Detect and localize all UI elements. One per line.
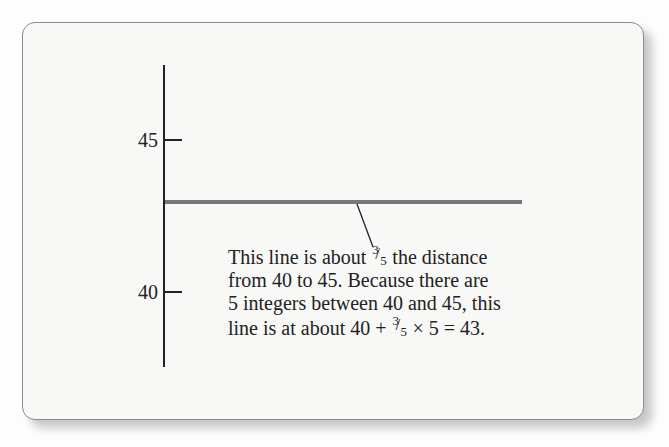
fraction-three-fifths-2: 3/5 bbox=[391, 315, 407, 335]
annotation-line-4-tail: × 5 = 43. bbox=[407, 317, 485, 339]
annotation-line-1-tail: the distance bbox=[387, 246, 487, 268]
fraction-three-fifths: 3/5 bbox=[371, 244, 387, 264]
fraction-denominator: 5 bbox=[380, 249, 387, 272]
leader-line bbox=[0, 0, 669, 447]
annotation-line-1-text: This line is about bbox=[228, 246, 366, 268]
fraction-denominator: 5 bbox=[400, 320, 407, 343]
annotation-line-4: line is at about 40 + 3/5 × 5 = 43. bbox=[228, 315, 501, 340]
annotation-text: This line is about 3/5 the distance from… bbox=[228, 244, 501, 340]
annotation-line-3: 5 integers between 40 and 45, this bbox=[228, 292, 501, 315]
annotation-line-2: from 40 to 45. Because there are bbox=[228, 269, 501, 292]
annotation-line-1: This line is about 3/5 the distance bbox=[228, 244, 501, 269]
annotation-line-4-text: line is at about 40 + bbox=[228, 317, 391, 339]
